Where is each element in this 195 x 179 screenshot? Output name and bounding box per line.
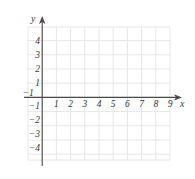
x-tick-label: 1 [50, 100, 62, 110]
x-tick-label: 5 [107, 100, 119, 110]
y-tick-label: 3 [29, 51, 40, 61]
x-tick-label: 8 [150, 100, 162, 110]
y-tick-label: −1 [27, 102, 40, 112]
x-tick-label: 7 [136, 100, 148, 110]
y-tick-label: 2 [29, 65, 40, 75]
x-axis-label: x [180, 99, 184, 109]
y-tick-label: −4 [27, 144, 40, 154]
y-tick-label: 4 [29, 37, 40, 47]
x-tick-label: 2 [65, 100, 77, 110]
x-tick-label: 4 [93, 100, 105, 110]
x-tick-label: −1 [22, 89, 34, 99]
y-tick-label: 1 [29, 79, 40, 89]
x-tick-label: 3 [79, 100, 91, 110]
y-tick-label: −2 [27, 116, 40, 126]
x-tick-label: 6 [121, 100, 133, 110]
y-tick-label: −3 [27, 130, 40, 140]
x-tick-label: 9 [164, 100, 176, 110]
y-axis-label: y [31, 14, 35, 24]
coordinate-plane-figure: y x −1 1 2 3 4 5 6 7 8 9 4 3 2 1 −1 −2 −… [0, 0, 195, 179]
